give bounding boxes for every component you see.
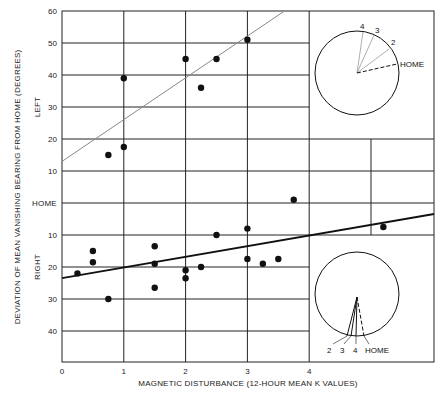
data-point: [291, 197, 297, 203]
data-point: [260, 261, 266, 267]
y-tick-label-left: 40: [48, 71, 57, 80]
data-point: [213, 232, 219, 238]
data-point: [275, 256, 281, 262]
lower-inset-label-home: HOME: [365, 346, 389, 355]
lower-inset-label-4: 4: [353, 346, 358, 355]
lower-inset-label-3: 3: [340, 346, 345, 355]
data-point: [90, 259, 96, 265]
lower-inset-label-2: 2: [327, 346, 332, 355]
y-tick-label-left: 60: [48, 7, 57, 16]
y-axis-title: DEVIATION OF MEAN VANISHING BEARING FROM…: [13, 50, 22, 325]
data-point: [121, 144, 127, 150]
data-point: [244, 225, 250, 231]
y-tick-label-right: 40: [48, 327, 57, 336]
upper-inset: 4 3 2 HOME: [315, 22, 424, 115]
y-tick-label-left: 20: [48, 135, 57, 144]
upper-inset-label-3: 3: [375, 26, 380, 35]
y-tick-label-right: 10: [48, 231, 57, 240]
upper-inset-label-4: 4: [360, 22, 365, 31]
x-tick-label: 4: [307, 367, 312, 376]
x-axis-title: MAGNETIC DISTURBANCE (12-HOUR MEAN K VAL…: [138, 379, 357, 388]
data-points: [74, 37, 386, 303]
home-label: HOME: [32, 199, 57, 208]
data-point: [182, 267, 188, 273]
x-tick-label: 1: [122, 367, 127, 376]
data-point: [182, 56, 188, 62]
x-tick-label: 3: [245, 367, 250, 376]
data-point: [152, 243, 158, 249]
lower-inset: 2 3 4 HOME: [315, 252, 399, 355]
scatter-chart: 0123460504030201010203040 MAGNETIC DISTU…: [0, 0, 444, 394]
upper-inset-label-2: 2: [391, 38, 396, 47]
data-point: [121, 75, 127, 81]
data-point: [152, 261, 158, 267]
x-tick-label: 2: [183, 367, 188, 376]
data-point: [198, 264, 204, 270]
left-region-label: LEFT: [33, 97, 42, 117]
right-region-label: RIGHT: [33, 254, 42, 280]
data-point: [90, 248, 96, 254]
y-tick-label-right: 20: [48, 263, 57, 272]
data-point: [152, 285, 158, 291]
y-tick-label-left: 10: [48, 167, 57, 176]
y-tick-label-left: 50: [48, 39, 57, 48]
y-tick-label-right: 30: [48, 295, 57, 304]
data-point: [74, 270, 80, 276]
axis-ticks: 0123460504030201010203040: [48, 7, 312, 376]
data-point: [380, 224, 386, 230]
right-regression-line: [62, 214, 434, 278]
data-point: [244, 37, 250, 43]
data-point: [105, 152, 111, 158]
data-point: [105, 296, 111, 302]
data-point: [198, 85, 204, 91]
x-tick-label: 0: [60, 367, 65, 376]
data-point: [213, 56, 219, 62]
grid-lines: [62, 11, 434, 362]
data-point: [182, 275, 188, 281]
y-tick-label-left: 30: [48, 103, 57, 112]
upper-inset-label-home: HOME: [400, 60, 424, 69]
data-point: [244, 256, 250, 262]
regression-lines: [62, 11, 434, 278]
